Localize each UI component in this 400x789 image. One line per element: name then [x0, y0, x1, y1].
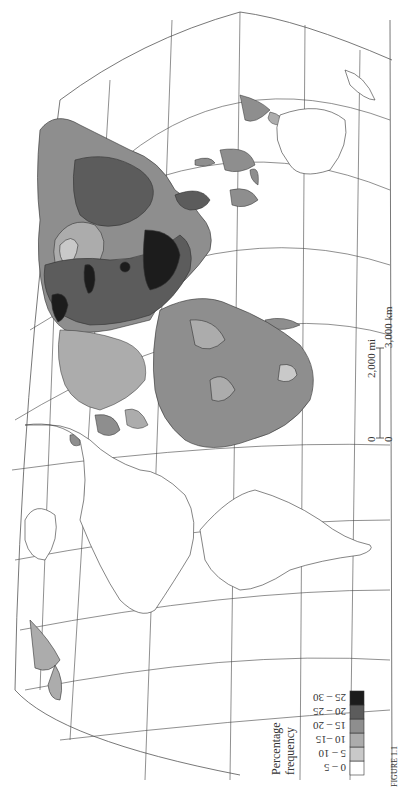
- scale-bar: 0 2,000 mi 0 3,000 km: [365, 306, 394, 442]
- scale-mi-label: 2,000 mi: [365, 339, 377, 378]
- south-america: [200, 490, 371, 590]
- scale-km-zero: 0: [382, 436, 394, 442]
- legend-label-3: 15 – 20: [313, 720, 347, 732]
- legend-labels: 0 – 5 5 – 10 10 –15 15 – 20 20 – 25 25 –…: [313, 692, 347, 774]
- caption-text: FIGURE 1.1: [390, 746, 399, 787]
- legend-label-2: 10 –15: [315, 734, 346, 746]
- scale-mi-zero: 0: [365, 436, 377, 442]
- australia: [277, 70, 375, 174]
- scale-km-label: 3,000 km: [382, 306, 394, 348]
- legend-label-4: 20 – 25: [313, 706, 347, 718]
- legend-title-line1: Percentage: [269, 722, 283, 775]
- legend-swatch-5-10: [350, 747, 364, 761]
- north-america: [25, 424, 194, 700]
- legend-label-1: 5 – 10: [318, 748, 346, 760]
- legend-label-5: 25 – 30: [313, 692, 347, 704]
- legend-label-0: 0 – 5: [324, 762, 347, 774]
- caption: FIGURE 1.1: [390, 746, 399, 787]
- legend-swatch-20-25: [350, 705, 364, 719]
- europe: [58, 330, 148, 446]
- legend-swatch-15-20: [350, 719, 364, 733]
- legend-swatch-0-5: [350, 761, 364, 775]
- legend: Percentage frequency 0 – 5 5 – 10 10 –15…: [269, 691, 364, 775]
- legend-title-line2: frequency: [283, 727, 297, 775]
- world-frequency-map: Percentage frequency 0 – 5 5 – 10 10 –15…: [0, 0, 400, 789]
- legend-swatch-25-30: [350, 691, 364, 705]
- legend-swatch-10-15: [350, 733, 364, 747]
- legend-swatches: [350, 691, 364, 775]
